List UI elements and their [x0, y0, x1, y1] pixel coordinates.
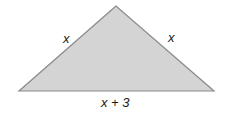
base-label-text: x + 3 [100, 95, 130, 110]
triangle-shape [19, 6, 214, 91]
triangle-diagram: x x x + 3 [0, 0, 228, 114]
left-side-label: x [62, 31, 70, 46]
right-side-label: x [167, 30, 175, 45]
base-label: x + 3 [100, 95, 130, 110]
